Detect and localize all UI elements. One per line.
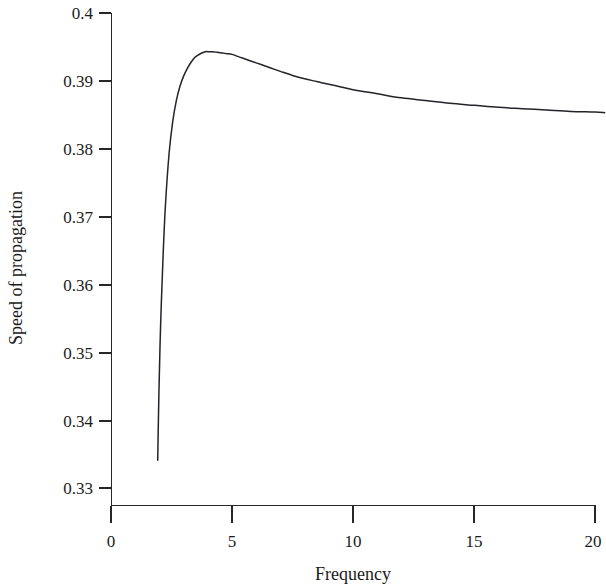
x-tick-label-2: 10 <box>345 532 362 551</box>
y-tick-label-7: 0.33 <box>63 479 93 498</box>
x-tick-labels: 0 5 10 15 20 <box>107 532 602 551</box>
y-tick-label-2: 0.38 <box>63 140 93 159</box>
x-tick-label-4: 20 <box>585 532 602 551</box>
y-tick-labels: 0.4 0.39 0.38 0.37 0.36 0.35 0.34 0.33 <box>63 4 93 498</box>
x-tick-marks <box>111 506 595 523</box>
y-tick-label-0: 0.4 <box>72 4 94 23</box>
y-tick-label-6: 0.34 <box>63 412 93 431</box>
chart-figure: 0.4 0.39 0.38 0.37 0.36 0.35 0.34 0.33 0… <box>0 0 606 586</box>
y-tick-label-4: 0.36 <box>63 276 93 295</box>
x-axis-title: Frequency <box>315 564 391 584</box>
plot-area: 0.4 0.39 0.38 0.37 0.36 0.35 0.34 0.33 0… <box>0 0 606 586</box>
x-tick-label-1: 5 <box>228 532 237 551</box>
y-tick-label-3: 0.37 <box>63 208 93 227</box>
x-tick-label-3: 15 <box>466 532 483 551</box>
y-axis-title: Speed of propagation <box>6 191 26 345</box>
y-tick-marks <box>99 13 111 488</box>
y-tick-label-5: 0.35 <box>63 344 93 363</box>
x-tick-label-0: 0 <box>107 532 116 551</box>
data-curve-speed-of-propagation <box>158 52 605 461</box>
y-tick-label-1: 0.39 <box>63 72 93 91</box>
